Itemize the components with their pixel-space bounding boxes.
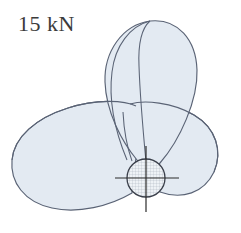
propeller-figure: 15 kN <box>0 0 241 233</box>
force-label: 15 kN <box>18 13 75 35</box>
